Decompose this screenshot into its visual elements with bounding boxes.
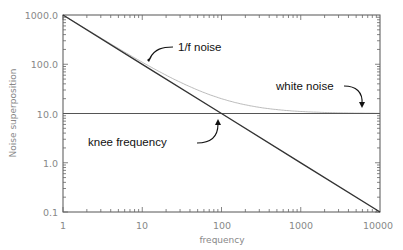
- x-tick-label: 100: [213, 220, 231, 231]
- x-axis-title: frequency: [199, 235, 245, 245]
- x-tick-label: 10: [136, 220, 148, 231]
- arrow-knee-frequency: [197, 124, 218, 143]
- arrowhead-icon: [147, 56, 152, 62]
- y-tick-label: 10.0: [37, 109, 58, 120]
- y-axis-title: Noise superposition: [8, 69, 18, 158]
- arrow-white-noise: [344, 86, 362, 104]
- y-tick-label: 0.1: [43, 207, 58, 218]
- y-tick-label: 1000.0: [25, 10, 58, 21]
- arrowhead-icon: [215, 119, 221, 125]
- annotation-1f-noise: 1/f noise: [178, 41, 221, 53]
- y-tick-label: 100.0: [31, 59, 58, 70]
- y-tick-label: 1.0: [43, 158, 58, 169]
- annotation-white-noise: white noise: [275, 80, 334, 92]
- x-tick-label: 10000: [363, 220, 393, 231]
- arrow-1f-noise: [150, 47, 173, 58]
- superposition-curve: [63, 15, 380, 114]
- arrowhead-icon: [359, 102, 365, 108]
- annotation-knee-frequency: knee frequency: [88, 136, 167, 148]
- x-tick-label: 1000: [289, 220, 313, 231]
- noise-chart: 1000.0 100.0 10.0 1.0 0.1 1 10 100 1000 …: [0, 0, 403, 250]
- x-tick-label: 1: [60, 220, 66, 231]
